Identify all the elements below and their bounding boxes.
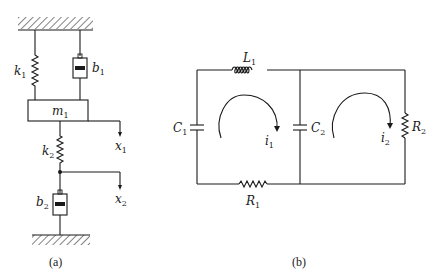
- top-ground-icon: [18, 17, 93, 30]
- figure-canvas: k1 b1 m1 x1 k2 x: [0, 0, 439, 280]
- caption-a: (a): [49, 255, 62, 269]
- resistor-R2-icon: [402, 113, 408, 138]
- spring-k2-icon: [57, 121, 63, 172]
- damper-b2-icon: [53, 172, 67, 235]
- displacement-x1-arrow-icon: [88, 121, 122, 137]
- label-L1: L1: [242, 51, 256, 67]
- label-b2: b2: [36, 195, 49, 211]
- spring-k1-icon: [32, 30, 38, 100]
- label-i2: i2: [381, 131, 390, 147]
- damper-b1-icon: [73, 30, 87, 100]
- label-k1: k1: [14, 64, 26, 80]
- capacitor-C2-icon: [293, 125, 307, 130]
- electrical-circuit: L1 C1 C2 R2 R1: [173, 51, 426, 269]
- resistor-R1-icon: [239, 181, 267, 187]
- label-x1: x1: [115, 139, 127, 155]
- mechanical-system: k1 b1 m1 x1 k2 x: [14, 17, 127, 269]
- caption-b: (b): [292, 255, 306, 269]
- capacitor-C1-icon: [190, 125, 204, 130]
- label-C2: C2: [311, 121, 325, 137]
- inductor-L1-icon: [232, 67, 252, 73]
- loop-current-i1-arrow-icon: [219, 95, 280, 138]
- label-R1: R1: [245, 194, 260, 210]
- label-x2: x2: [115, 192, 127, 208]
- label-k2: k2: [42, 144, 54, 160]
- displacement-x2-arrow-icon: [60, 172, 122, 190]
- label-b1: b1: [92, 61, 105, 77]
- label-i1: i1: [265, 134, 274, 150]
- label-C1: C1: [173, 121, 187, 137]
- label-R2: R2: [411, 120, 426, 136]
- label-m1: m1: [52, 104, 68, 120]
- bottom-ground-icon: [32, 235, 90, 245]
